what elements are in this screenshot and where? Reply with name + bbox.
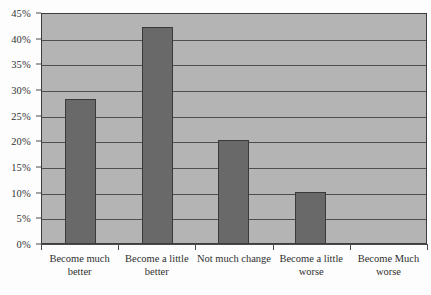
x-axis-category-label: Become Much worse (350, 252, 427, 278)
y-axis-tick-label: 30% (11, 85, 31, 96)
x-axis-category-label: Not much change (195, 252, 272, 278)
x-axis-tick-mark (350, 244, 351, 250)
x-axis-category-label: Become a little better (118, 252, 195, 278)
y-axis-tick-label: 45% (11, 8, 31, 19)
bar (218, 140, 249, 243)
y-axis-tick-label: 25% (11, 110, 31, 121)
x-axis-category-label: Become a little worse (273, 252, 350, 278)
x-axis-tick-mark (118, 244, 119, 250)
x-axis-tick-mark (273, 244, 274, 250)
bar-slot (42, 14, 119, 243)
y-axis: 0%5%10%15%20%25%30%35%40%45% (0, 0, 36, 248)
y-axis-tick-label: 35% (11, 59, 31, 70)
x-axis-category-label: Become much better (41, 252, 118, 278)
bar-slot (272, 14, 349, 243)
bar-slot (119, 14, 196, 243)
y-axis-tick-label: 5% (17, 213, 31, 224)
plot-area (41, 13, 427, 244)
bars-group (42, 14, 426, 243)
y-axis-tick-label: 20% (11, 136, 31, 147)
x-axis-tick-mark (195, 244, 196, 250)
y-axis-tick-label: 0% (17, 239, 31, 250)
y-axis-tick-label: 15% (11, 162, 31, 173)
bar-slot (196, 14, 273, 243)
bar (142, 27, 173, 243)
x-axis-ticks (41, 244, 427, 250)
bar (65, 99, 96, 243)
x-axis-tick-mark (427, 244, 428, 250)
bar-chart-figure: 0%5%10%15%20%25%30%35%40%45% Become much… (0, 0, 431, 295)
x-axis-labels: Become much betterBecome a little better… (41, 252, 427, 278)
bar-slot (349, 14, 426, 243)
x-axis-tick-mark (41, 244, 42, 250)
bar (295, 192, 326, 243)
y-axis-tick-label: 40% (11, 33, 31, 44)
y-axis-tick-label: 10% (11, 187, 31, 198)
